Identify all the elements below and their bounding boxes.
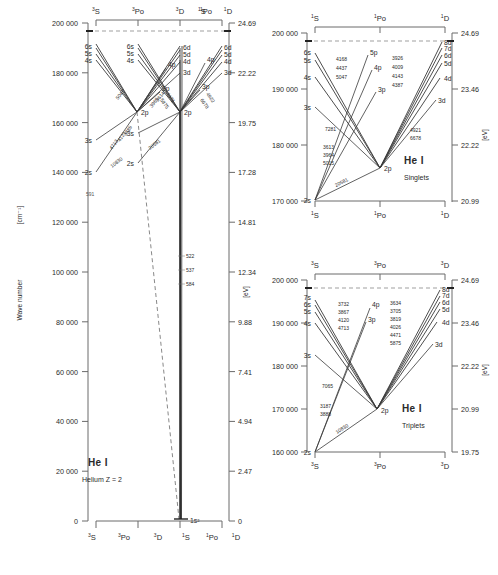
- main-ev-label: 24.69: [238, 19, 256, 28]
- triplets-top-terms: 3S 3Po 3D: [311, 260, 450, 270]
- svg-text:7s: 7s: [304, 294, 312, 301]
- panel-singlets: 200 000 190 000 180 000 170 000 24.69 23…: [272, 13, 489, 220]
- svg-text:3964: 3964: [323, 152, 334, 158]
- svg-text:4026: 4026: [390, 324, 401, 330]
- triplets-ev-label: 19.75: [461, 448, 479, 457]
- triplets-right-ticks: 24.69 23.46 22.22 20.99 19.75: [452, 276, 479, 457]
- triplets-ev-label: 23.46: [461, 319, 479, 328]
- main-yaxis-unit: [cm⁻¹]: [16, 206, 24, 225]
- singlets-ytick-label: 170 000: [272, 197, 298, 206]
- svg-text:7281: 7281: [325, 126, 336, 132]
- svg-text:3d: 3d: [183, 69, 191, 76]
- svg-text:4921: 4921: [410, 127, 421, 133]
- triplets-subtitle: Triplets: [402, 422, 425, 430]
- svg-text:5d: 5d: [444, 60, 452, 67]
- svg-text:537: 537: [186, 267, 195, 273]
- main-top-term-bracket: [96, 20, 222, 26]
- triplets-top-bracket: [315, 274, 445, 280]
- svg-text:3s: 3s: [85, 137, 93, 144]
- triplets-ev-label: 24.69: [461, 276, 479, 285]
- svg-text:4120: 4120: [338, 317, 349, 323]
- main-ev-label: 14.81: [238, 218, 256, 227]
- svg-text:2s: 2s: [304, 449, 312, 456]
- svg-text:3s: 3s: [127, 130, 135, 137]
- triplets-right-axis-unit: [eV]: [481, 364, 489, 376]
- svg-text:5875: 5875: [390, 340, 401, 346]
- main-ytick-label: 0: [74, 517, 78, 526]
- svg-text:5s: 5s: [304, 57, 312, 64]
- main-ytick-label: 20 000: [56, 467, 78, 476]
- svg-text:3S: 3S: [92, 6, 100, 16]
- singlets-ev-label: 20.99: [461, 197, 479, 206]
- main-ev-label: 17.28: [238, 168, 256, 177]
- triplets-wavelength-labels: 3732 3867 4120 4713 7065 3187 3888 10830…: [320, 300, 401, 435]
- triplets-ytick-label: 170 000: [272, 405, 298, 414]
- svg-text:4s: 4s: [304, 74, 312, 81]
- main-resonance-transitions: [180, 46, 182, 519]
- svg-text:5047: 5047: [336, 74, 347, 80]
- main-bottom-terms: 3S 3Po 3D 1S 1Po 1D: [88, 532, 241, 542]
- svg-text:2s: 2s: [127, 160, 135, 167]
- svg-text:3S: 3S: [311, 260, 319, 270]
- svg-text:4p: 4p: [374, 64, 382, 72]
- singlets-right-ticks: 24.69 23.46 22.22 20.99: [452, 29, 479, 206]
- svg-text:4143: 4143: [392, 73, 403, 79]
- svg-text:4p: 4p: [372, 301, 380, 309]
- svg-text:6s: 6s: [304, 301, 312, 308]
- svg-text:3D: 3D: [441, 260, 450, 270]
- singlets-subtitle: Singlets: [404, 174, 429, 182]
- svg-text:5d: 5d: [442, 306, 450, 313]
- svg-text:5015: 5015: [323, 160, 334, 166]
- svg-text:3819: 3819: [390, 316, 401, 322]
- svg-text:3p: 3p: [368, 316, 376, 324]
- singlets-ev-label: 22.22: [461, 141, 479, 150]
- svg-text:1Po: 1Po: [206, 532, 218, 542]
- svg-text:3D: 3D: [176, 6, 185, 16]
- singlets-top-bracket: [315, 27, 445, 33]
- grotrian-diagram-figure: 200 000 180 000 160 000 140 000 120 000 …: [0, 0, 498, 575]
- svg-text:8d: 8d: [442, 286, 450, 293]
- main-ev-label: 4.94: [238, 417, 252, 426]
- svg-text:1Po: 1Po: [374, 13, 386, 23]
- svg-text:1Po: 1Po: [374, 210, 386, 220]
- svg-text:1S: 1S: [311, 210, 319, 220]
- svg-text:6s: 6s: [85, 43, 93, 50]
- svg-text:10830: 10830: [109, 155, 124, 168]
- triplets-ytick-label: 200 000: [272, 276, 298, 285]
- singlets-ytick-label: 200 000: [272, 29, 298, 38]
- main-ev-label: 19.75: [238, 119, 256, 128]
- diagram-canvas: 200 000 180 000 160 000 140 000 120 000 …: [0, 0, 498, 575]
- main-ytick-label: 140 000: [52, 168, 78, 177]
- main-ytick-label: 200 000: [52, 19, 78, 28]
- main-subtitle: Helium Z = 2: [82, 476, 122, 483]
- svg-text:4d: 4d: [444, 75, 452, 82]
- main-left-ticks: 200 000 180 000 160 000 140 000 120 000 …: [52, 19, 88, 526]
- main-title: He I: [88, 457, 108, 468]
- svg-text:522: 522: [186, 253, 195, 259]
- main-right-axis-unit: [eV]: [242, 286, 250, 298]
- singlets-bottom-terms: 1S 1Po 1D: [311, 210, 450, 220]
- svg-text:2p: 2p: [141, 109, 149, 117]
- triplets-ytick-label: 180 000: [272, 362, 298, 371]
- svg-text:3S: 3S: [311, 461, 319, 471]
- svg-text:5p: 5p: [370, 49, 378, 57]
- svg-text:7d: 7d: [444, 45, 452, 52]
- svg-text:4387: 4387: [392, 82, 403, 88]
- svg-text:3D: 3D: [154, 532, 163, 542]
- svg-text:3S: 3S: [88, 532, 96, 542]
- triplets-level-labels: 2s 3s 4s 5s 6s 7s 2p 3p 4p 3d 4d 5d 6d 7…: [304, 286, 450, 456]
- svg-text:5s: 5s: [85, 50, 93, 57]
- svg-text:1D: 1D: [224, 6, 233, 16]
- triplets-ev-label: 22.22: [461, 362, 479, 371]
- svg-text:6678: 6678: [410, 135, 421, 141]
- triplets-bottom-term-axis: [315, 452, 445, 458]
- svg-text:5s: 5s: [304, 308, 312, 315]
- svg-text:2s: 2s: [304, 197, 312, 204]
- svg-text:3D: 3D: [441, 461, 450, 471]
- svg-text:1S: 1S: [182, 532, 190, 542]
- main-forbidden-wavelength: 591: [86, 191, 95, 197]
- svg-text:4168: 4168: [336, 56, 347, 62]
- svg-text:3867: 3867: [338, 309, 349, 315]
- singlets-right-axis-unit: [eV]: [481, 129, 489, 141]
- svg-text:6d: 6d: [442, 299, 450, 306]
